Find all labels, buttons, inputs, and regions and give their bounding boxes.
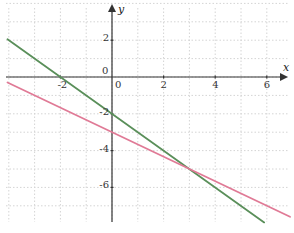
series-line: [8, 39, 265, 222]
chart-container: -2024620-2-4-6xy: [0, 0, 294, 233]
y-tick-label: 2: [103, 32, 109, 43]
y-tick-label: -2: [99, 106, 109, 117]
x-tick-label: 4: [212, 79, 218, 90]
y-axis-label: y: [117, 3, 125, 16]
series-line: [8, 83, 291, 217]
y-tick-label: -6: [99, 179, 109, 190]
y-tick-label: -4: [99, 143, 109, 154]
x-tick-label: 0: [115, 79, 121, 90]
series: [8, 39, 291, 222]
y-tick-label: 0: [102, 65, 108, 76]
line-chart: -2024620-2-4-6xy: [0, 0, 294, 233]
axes: [6, 4, 288, 222]
y-axis-arrow-icon: [108, 4, 116, 12]
x-tick-label: 2: [161, 79, 167, 90]
x-tick-label: -2: [57, 79, 67, 90]
x-axis-label: x: [283, 61, 290, 74]
x-axis-arrow-icon: [280, 73, 288, 81]
grid: [6, 3, 288, 222]
x-tick-label: 6: [264, 79, 270, 90]
